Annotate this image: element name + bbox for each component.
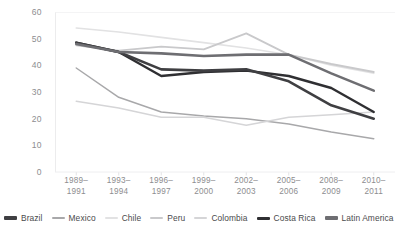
legend-label: Mexico (69, 213, 96, 223)
legend-item-brazil[interactable]: Brazil (4, 213, 43, 223)
legend-label: Chile (122, 213, 142, 223)
x-axis-tick-4: 2002–2003 (234, 176, 258, 197)
legend-label: Costa Rica (274, 213, 316, 223)
legend-swatch-icon (325, 216, 338, 219)
legend-label: Latin America (342, 213, 394, 223)
series-line-latin-america (76, 44, 374, 91)
x-axis-tick-2: 1996–1997 (149, 176, 173, 197)
legend-item-colombia[interactable]: Colombia (194, 213, 247, 223)
legend-item-costa-rica[interactable]: Costa Rica (257, 213, 316, 223)
legend-swatch-icon (105, 217, 118, 219)
x-axis-tick-7: 2010–2011 (362, 176, 386, 197)
legend-item-mexico[interactable]: Mexico (52, 213, 96, 223)
legend-swatch-icon (52, 217, 65, 219)
chart-legend: BrazilMexicoChilePeruColombiaCosta RicaL… (4, 208, 398, 228)
legend-swatch-icon (150, 217, 163, 219)
x-axis-tick-1: 1993–1994 (107, 176, 131, 197)
legend-label: Peru (167, 213, 185, 223)
legend-item-chile[interactable]: Chile (105, 213, 142, 223)
x-axis-tick-0: 1989–1991 (64, 176, 88, 197)
x-axis-tick-5: 2005–2006 (277, 176, 301, 197)
x-axis-tick-3: 1999–2000 (192, 176, 216, 197)
legend-label: Colombia (211, 213, 247, 223)
legend-item-latin-america[interactable]: Latin America (325, 213, 394, 223)
legend-item-peru[interactable]: Peru (150, 213, 185, 223)
legend-swatch-icon (194, 217, 207, 219)
legend-swatch-icon (257, 217, 270, 220)
x-axis-labels: 1989–19911993–19941996–19971999–20002002… (55, 176, 395, 202)
line-chart: 6050403020100 1989–19911993–19941996–199… (0, 0, 400, 235)
legend-label: Brazil (21, 213, 43, 223)
x-axis-tick-6: 2008–2009 (319, 176, 343, 197)
legend-swatch-icon (4, 216, 17, 219)
